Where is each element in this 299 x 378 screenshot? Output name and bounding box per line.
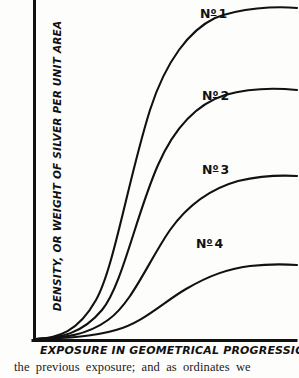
numero-sign-2: No: [202, 88, 219, 103]
y-axis-label: DENSITY, OR WEIGHT OF SILVER PER UNIT AR…: [51, 16, 63, 316]
curve-no-3: [36, 176, 297, 339]
x-axis-label: EXPOSURE IN GEOMETRICAL PROGRESSION: [40, 344, 293, 357]
curve-label-no-2: No2: [202, 88, 230, 103]
curve-number-2: 2: [221, 88, 230, 103]
body-text-fragment: the previous exposure; and as ordinates …: [14, 360, 292, 378]
numero-sign-3: No: [202, 162, 219, 177]
curve-label-no-4: No4: [196, 236, 224, 251]
characteristic-curve-figure: No1 No2 No3 No4 EXPOSURE IN GEOMETRICAL …: [0, 0, 299, 378]
plot-area: [0, 0, 299, 378]
curve-label-no-1: No1: [200, 6, 228, 21]
curve-label-no-3: No3: [202, 162, 230, 177]
numero-sign-4: No: [196, 236, 213, 251]
curve-number-1: 1: [219, 6, 228, 21]
curve-no-1: [36, 7, 297, 339]
numero-sign-1: No: [200, 6, 217, 21]
curve-number-3: 3: [221, 162, 230, 177]
curve-no-4: [36, 264, 297, 339]
curve-number-4: 4: [215, 236, 224, 251]
